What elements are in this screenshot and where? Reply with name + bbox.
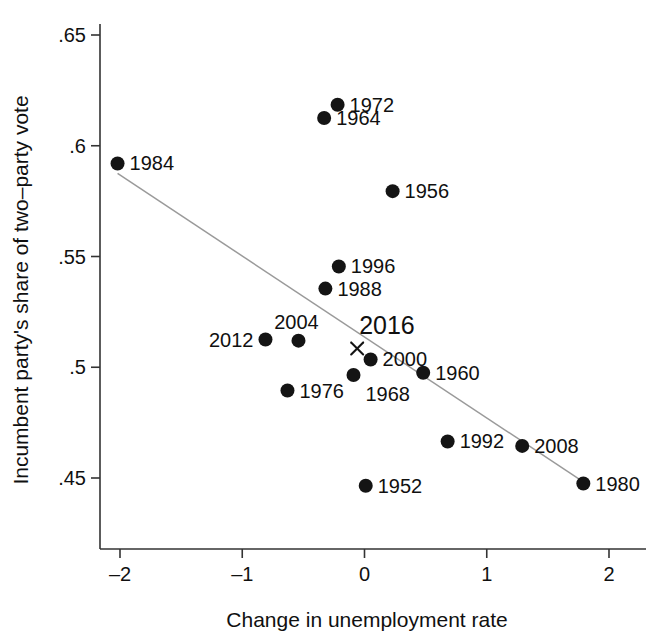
x-axis-title: Change in unemployment rate [226,608,507,631]
x-tick-label: 2 [603,563,614,585]
y-axis-title: Incumbent party's share of two–party vot… [9,95,32,484]
y-tick-label: .5 [69,356,86,378]
point-label-1988: 1988 [337,278,382,300]
data-point-dot [346,368,360,382]
x-tick-label: –2 [109,563,131,585]
data-point-dot [359,479,373,493]
point-label-1976: 1976 [299,380,344,402]
data-point-dot [515,439,529,453]
y-tick-label: .55 [58,246,86,268]
y-tick-label: .45 [58,467,86,489]
data-point-marker-x [351,342,363,354]
x-tick-label: 1 [481,563,492,585]
point-label-1996: 1996 [351,255,396,277]
data-point-dot [364,352,378,366]
point-label-1964: 1964 [336,107,381,129]
data-point-dot [332,259,346,273]
data-point-dot [318,282,332,296]
data-point-dot [441,434,455,448]
data-point-dot [386,184,400,198]
point-label-2004: 2004 [274,311,319,333]
point-label-1984: 1984 [130,152,175,174]
data-point-dot [291,334,305,348]
point-label-1960: 1960 [435,362,480,384]
point-label-1956: 1956 [405,180,450,202]
point-labels-layer: 1984197219641956199619882012200420162000… [130,94,640,497]
point-label-2008: 2008 [534,435,579,457]
x-tick-label: 0 [359,563,370,585]
point-label-1968: 1968 [365,383,410,405]
point-label-1980: 1980 [595,473,640,495]
point-label-1952: 1952 [378,475,423,497]
data-point-dot [576,477,590,491]
point-label-1992: 1992 [460,430,505,452]
point-label-2012: 2012 [209,329,254,351]
point-label-2000: 2000 [383,348,428,370]
point-label-2016: 2016 [359,311,415,339]
y-tick-label: .65 [58,24,86,46]
scatter-plot-figure: .45.5.55.6.65–2–1012 1984197219641956199… [0,0,667,644]
chart-canvas: .45.5.55.6.65–2–1012 1984197219641956199… [0,0,667,644]
data-point-dot [111,156,125,170]
regression-line [118,173,589,485]
data-point-dot [258,333,272,347]
data-point-dot [280,384,294,398]
regression-line-layer [118,173,589,485]
y-tick-label: .6 [69,135,86,157]
x-tick-label: –1 [231,563,253,585]
data-point-dot [317,111,331,125]
